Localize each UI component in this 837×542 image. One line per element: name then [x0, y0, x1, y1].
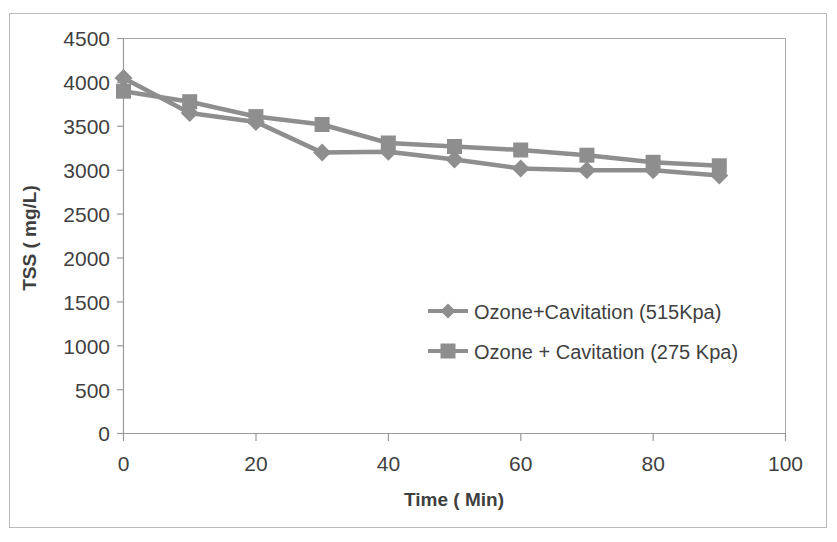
x-tick-label: 0	[118, 452, 130, 475]
y-tick-label: 1500	[63, 291, 110, 314]
y-tick-label: 3500	[63, 115, 110, 138]
y-axis-title: TSS ( mg/L)	[19, 185, 40, 291]
y-tick-label: 2000	[63, 247, 110, 270]
legend-entry-series-1: Ozone + Cavitation (275 Kpa)	[428, 341, 738, 363]
x-axis-ticks	[124, 434, 786, 442]
data-point-marker	[447, 139, 462, 154]
y-tick-label: 2500	[63, 203, 110, 226]
data-point-marker	[513, 143, 528, 158]
y-tick-label: 0	[98, 422, 110, 445]
data-point-marker	[646, 155, 661, 170]
legend-label-series-0: Ozone+Cavitation (515Kpa)	[474, 301, 721, 323]
x-tick-label: 40	[377, 452, 400, 475]
data-point-marker	[579, 148, 594, 163]
line-chart: 4500 4000 3500 3000 2500 2000 1500 1000 …	[0, 0, 837, 542]
x-tick-label: 20	[244, 452, 267, 475]
data-point-marker	[182, 94, 197, 109]
data-point-marker	[381, 136, 396, 151]
y-axis-tick-labels: 4500 4000 3500 3000 2500 2000 1500 1000 …	[63, 27, 110, 445]
chart-figure: 4500 4000 3500 3000 2500 2000 1500 1000 …	[0, 0, 837, 542]
legend-square-marker	[441, 344, 456, 359]
y-tick-label: 500	[75, 379, 110, 402]
data-point-marker	[315, 117, 330, 132]
y-tick-label: 4500	[63, 27, 110, 50]
data-point-marker	[712, 158, 727, 173]
x-tick-label: 60	[509, 452, 532, 475]
x-axis-tick-labels: 0 20 40 60 80 100	[118, 452, 803, 475]
x-tick-label: 100	[768, 452, 803, 475]
data-point-marker	[248, 109, 263, 124]
y-tick-label: 1000	[63, 335, 110, 358]
plot-area-frame	[124, 39, 786, 434]
y-tick-label: 4000	[63, 71, 110, 94]
data-point-marker	[116, 84, 131, 99]
legend-label-series-1: Ozone + Cavitation (275 Kpa)	[474, 341, 738, 363]
x-axis-title: Time ( Min)	[404, 489, 504, 510]
y-tick-label: 3000	[63, 159, 110, 182]
x-tick-label: 80	[642, 452, 665, 475]
